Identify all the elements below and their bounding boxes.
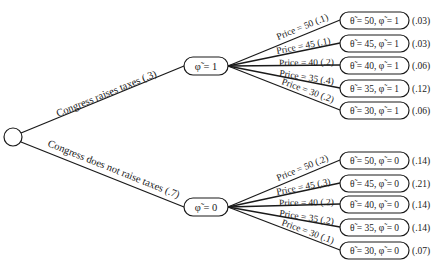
leaf-label: θ̃ = 35, φ̃ = 0 bbox=[350, 223, 399, 233]
leaf-probability: (.14) bbox=[412, 200, 430, 211]
leaf-node: θ̃ = 50, φ̃ = 0 (.14) bbox=[340, 152, 430, 169]
node-phi-0-label: φ̃ = 0 bbox=[195, 202, 217, 213]
edge-label-raise-taxes: Congress raises taxes (.3) bbox=[55, 68, 159, 120]
leaf-node: θ̃ = 40, φ̃ = 0 (.14) bbox=[340, 196, 430, 213]
leaf-probability: (.12) bbox=[412, 84, 430, 95]
leaf-probability: (.07) bbox=[412, 246, 430, 257]
edge-no-raise-taxes bbox=[21, 142, 184, 207]
leaf-node: θ̃ = 30, φ̃ = 1 (.06) bbox=[340, 102, 430, 119]
leaf-node: θ̃ = 50, φ̃ = 1 (.03) bbox=[340, 12, 430, 29]
leaf-label: θ̃ = 30, φ̃ = 1 bbox=[350, 106, 399, 116]
leaf-label: θ̃ = 50, φ̃ = 1 bbox=[350, 16, 399, 26]
leaf-label: θ̃ = 45, φ̃ = 0 bbox=[350, 179, 399, 189]
leaf-probability: (.06) bbox=[412, 61, 430, 72]
leaf-probability: (.03) bbox=[412, 16, 430, 27]
leaf-probability: (.14) bbox=[412, 156, 430, 167]
leaf-node: θ̃ = 35, φ̃ = 0 (.14) bbox=[340, 219, 430, 236]
edge-label-no-raise-taxes: Congress does not raise taxes (.7) bbox=[46, 138, 182, 202]
root-chance-node bbox=[4, 128, 22, 146]
top-leaves: θ̃ = 50, φ̃ = 1 (.03) θ̃ = 45, φ̃ = 1 (.… bbox=[340, 12, 430, 119]
leaf-label: θ̃ = 35, φ̃ = 1 bbox=[350, 84, 399, 94]
decision-tree-diagram: Congress raises taxes (.3) Congress does… bbox=[0, 0, 444, 271]
leaf-probability: (.06) bbox=[412, 106, 430, 117]
node-phi-0: φ̃ = 0 bbox=[184, 198, 228, 216]
leaf-label: θ̃ = 40, φ̃ = 0 bbox=[350, 200, 399, 210]
leaf-node: θ̃ = 30, φ̃ = 0 (.07) bbox=[340, 242, 430, 259]
leaf-label: θ̃ = 40, φ̃ = 1 bbox=[350, 61, 399, 71]
leaf-node: θ̃ = 45, φ̃ = 1 (.03) bbox=[340, 35, 430, 52]
price-label: Price = 40 (.2) bbox=[279, 57, 334, 69]
bottom-leaves: θ̃ = 50, φ̃ = 0 (.14) θ̃ = 45, φ̃ = 0 (.… bbox=[340, 152, 430, 259]
leaf-label: θ̃ = 45, φ̃ = 1 bbox=[350, 39, 399, 49]
leaf-label: θ̃ = 30, φ̃ = 0 bbox=[350, 246, 399, 256]
leaf-probability: (.14) bbox=[412, 223, 430, 234]
leaf-node: θ̃ = 40, φ̃ = 1 (.06) bbox=[340, 57, 430, 74]
leaf-probability: (.21) bbox=[412, 179, 430, 190]
bottom-price-labels: Price = 50 (.2) Price = 45 (.3) Price = … bbox=[275, 153, 335, 247]
leaf-probability: (.03) bbox=[412, 39, 430, 50]
leaf-label: θ̃ = 50, φ̃ = 0 bbox=[350, 156, 399, 166]
node-phi-1-label: φ̃ = 1 bbox=[195, 61, 217, 72]
node-phi-1: φ̃ = 1 bbox=[184, 57, 228, 75]
leaf-node: θ̃ = 35, φ̃ = 1 (.12) bbox=[340, 80, 430, 97]
price-label: Price = 40 (.2) bbox=[279, 197, 334, 209]
leaf-node: θ̃ = 45, φ̃ = 0 (.21) bbox=[340, 175, 430, 192]
